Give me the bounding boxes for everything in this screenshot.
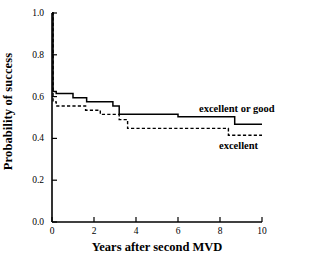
chart-canvas <box>0 0 316 265</box>
chart-figure: Probability of success Years after secon… <box>0 0 316 265</box>
series-paths <box>52 13 262 135</box>
series-line-excellent-or-good <box>52 13 262 124</box>
